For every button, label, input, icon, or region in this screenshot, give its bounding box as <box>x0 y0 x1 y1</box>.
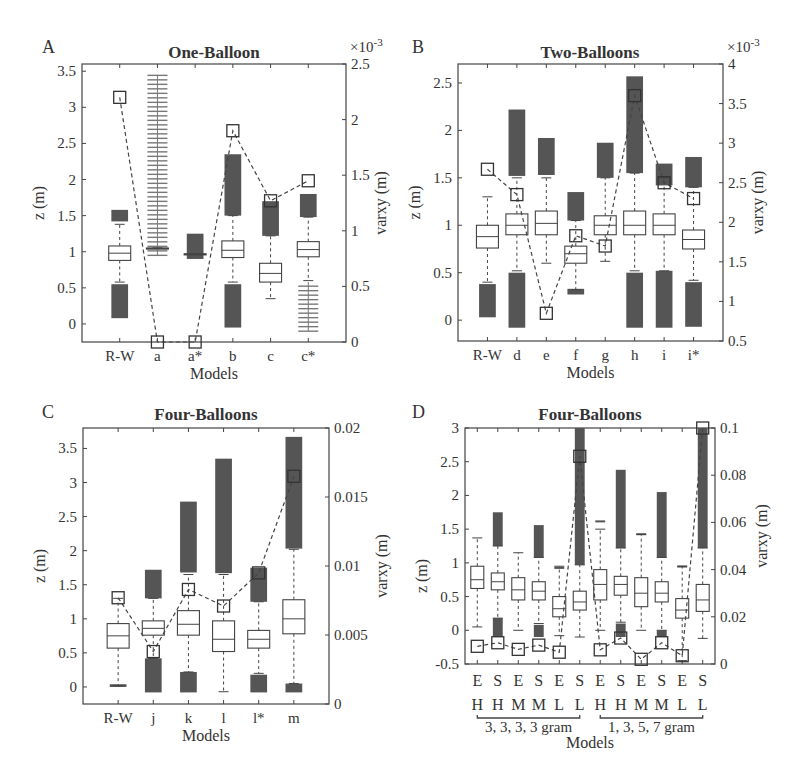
y-right-tick-label: 0.06 <box>720 514 747 530</box>
outlier-cluster <box>616 470 626 548</box>
outlier-cluster <box>616 624 626 637</box>
y-right-tick-label: 0.02 <box>334 420 360 436</box>
box <box>635 578 648 607</box>
y-tick-label: 0 <box>69 316 77 332</box>
x-tick-label-row2: M <box>634 696 648 713</box>
y-tick-label: 3 <box>70 475 78 491</box>
outlier-cluster <box>479 284 496 317</box>
panel-d: DFour-Balloons-0.500.511.522.5300.020.04… <box>412 402 771 751</box>
outlier-cluster <box>509 273 526 328</box>
y-right-axis-label: varxy (m) <box>372 171 390 235</box>
x-tick-label: R-W <box>105 348 135 364</box>
x-tick-label: a <box>154 348 161 364</box>
y-right-tick-label: 3 <box>728 135 736 151</box>
x-tick-label: d <box>513 347 521 363</box>
x-tick-label: f <box>573 347 578 363</box>
group-label: 3, 3, 3, 3 gram <box>485 719 572 735</box>
outlier-cluster <box>180 502 197 573</box>
outlier-cluster <box>657 630 667 637</box>
x-tick-label-row1: S <box>698 672 707 689</box>
panel-title: Four-Balloons <box>154 405 258 424</box>
y-tick-label: 3 <box>69 99 77 115</box>
x-axis-label: Models <box>566 734 614 751</box>
x-tick-label-row2: L <box>575 696 585 713</box>
varxy-line <box>477 428 702 659</box>
outlier-cluster <box>224 284 241 327</box>
box <box>655 582 668 602</box>
y-axis-label: z (m) <box>406 185 424 219</box>
y-right-tick-label: 1.5 <box>351 167 370 183</box>
x-tick-label-row1: E <box>513 672 523 689</box>
y-right-axis-label: varxy (m) <box>753 504 771 568</box>
outlier-cluster <box>656 271 673 328</box>
outlier-cluster <box>111 210 128 222</box>
box <box>624 211 646 235</box>
box <box>653 214 675 235</box>
y-tick-label: 1 <box>452 555 460 571</box>
x-tick-label: l* <box>253 710 265 726</box>
y-right-tick-label: 0.015 <box>334 489 368 505</box>
y-right-tick-label: 3.5 <box>728 96 747 112</box>
x-tick-label-row2: H <box>492 696 504 713</box>
panel-title: Four-Balloons <box>538 405 642 424</box>
axes-frame <box>458 64 723 341</box>
y-right-tick-label: 0.005 <box>334 627 368 643</box>
right-axis-multiplier: ×10-3 <box>350 36 383 55</box>
y-tick-label: 2 <box>69 172 77 188</box>
x-tick-label-row1: E <box>554 672 564 689</box>
y-tick-label: 0 <box>452 622 460 638</box>
x-axis-label: Models <box>567 364 615 381</box>
box <box>260 263 282 282</box>
box <box>696 584 709 611</box>
panel-letter: B <box>412 37 424 57</box>
outlier-cluster <box>145 658 162 692</box>
y-tick-label: 2.5 <box>57 135 76 151</box>
outlier-cluster <box>657 492 667 557</box>
group-bracket <box>600 715 702 718</box>
outlier-cluster <box>250 675 267 693</box>
y-right-tick-label: 0 <box>334 696 342 712</box>
panel-a: AOne-Balloon×10-300.511.522.533.500.511.… <box>30 36 390 382</box>
x-tick-label: b <box>229 348 237 364</box>
outlier-cluster <box>575 428 585 565</box>
outlier-cluster <box>698 428 708 548</box>
y-right-tick-label: 0.08 <box>720 467 746 483</box>
x-tick-label: m <box>288 710 300 726</box>
y-axis-label: z (m) <box>31 549 49 583</box>
y-axis-label: z (m) <box>30 186 48 220</box>
x-tick-label: g <box>601 347 609 363</box>
x-tick-label: e <box>543 347 550 363</box>
x-tick-label-row2: L <box>677 696 687 713</box>
y-right-tick-label: 2.5 <box>351 56 370 72</box>
box <box>565 246 587 263</box>
x-tick-label-row2: L <box>554 696 564 713</box>
x-axis-label: Models <box>190 365 238 382</box>
y-right-tick-label: 2 <box>351 112 359 128</box>
y-tick-label: 0 <box>445 312 453 328</box>
outlier-cluster <box>215 459 232 573</box>
x-tick-label-row1: S <box>657 672 666 689</box>
y-tick-label: 0.5 <box>440 589 459 605</box>
x-tick-label-row1: E <box>636 672 646 689</box>
box <box>283 600 305 634</box>
x-tick-label-row1: S <box>534 672 543 689</box>
outlier-cluster <box>493 618 503 637</box>
y-right-tick-label: 0.1 <box>720 420 739 436</box>
y-tick-label: 1.5 <box>58 577 77 593</box>
x-tick-label-row2: H <box>594 696 606 713</box>
outlier-cluster <box>493 512 503 546</box>
y-right-tick-label: 0.5 <box>728 333 747 349</box>
outlier-cluster <box>626 273 643 328</box>
y-right-tick-label: 0 <box>720 656 728 672</box>
y-right-tick-label: 1 <box>351 223 359 239</box>
y-right-axis-label: varxy (m) <box>373 534 391 598</box>
x-tick-label: R-W <box>104 710 134 726</box>
x-tick-label-row1: E <box>595 672 605 689</box>
box <box>676 599 689 619</box>
outlier-cluster <box>145 570 162 599</box>
y-tick-label: 3.5 <box>58 440 77 456</box>
outlier-cluster <box>554 567 564 569</box>
x-tick-label-row1: S <box>575 672 584 689</box>
y-tick-label: 2 <box>452 487 460 503</box>
y-tick-label: 1.5 <box>57 208 76 224</box>
